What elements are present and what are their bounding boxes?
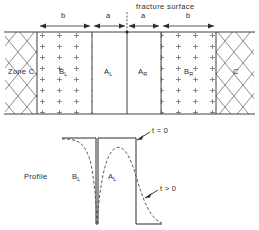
profile-a-left-label: AL: [108, 172, 117, 181]
zone-a-right-label: AR: [138, 67, 148, 76]
leader-t-positive-head: [145, 193, 152, 198]
dimension-label-b-left: b: [61, 11, 65, 20]
annotation-t-positive: t > 0: [160, 184, 176, 193]
zone-c-right-label: C: [233, 67, 239, 76]
fracture-centre-dot: [126, 31, 129, 34]
dimension-arrow-row: [0, 10, 259, 32]
annotation-t-zero: t = 0: [152, 126, 168, 135]
zone-b-left-label: BL: [59, 67, 68, 76]
leader-t-zero-head: [137, 135, 144, 140]
zone-c-left-label: Zone C: [8, 67, 34, 76]
zone-b-left-label-sub: L: [64, 71, 67, 77]
zone-c-left-label-text: Zone C: [8, 67, 34, 76]
zone-b-right-label: BR: [184, 67, 194, 76]
profile-b-left-label: BL: [72, 172, 81, 181]
curve-t-positive-right: [97, 147, 162, 223]
dimension-label-b-right: b: [186, 11, 190, 20]
zone-c-right-label-text: C: [233, 67, 239, 76]
profile-label: Profile: [24, 172, 47, 181]
cross-section-diagram: [0, 30, 259, 116]
zone-a-left-label-sub: L: [109, 71, 112, 77]
dimension-label-a-right: a: [141, 11, 145, 20]
zone-a-right-label-sub: R: [143, 71, 147, 77]
zone-b-right-label-sub: R: [189, 71, 193, 77]
figure-root: fracture surface b a a b: [0, 0, 259, 230]
profile-b-left-label-sub: L: [77, 176, 80, 182]
zone-a-left-label: AL: [104, 67, 113, 76]
dimension-label-a-left: a: [106, 11, 110, 20]
profile-a-left-label-sub: L: [113, 176, 116, 182]
